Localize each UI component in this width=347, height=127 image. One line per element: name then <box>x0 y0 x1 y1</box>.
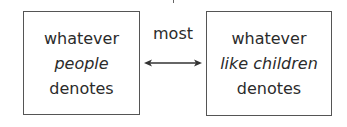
left-box-line-2: people <box>54 51 108 76</box>
right-box-line-2: like children <box>220 51 318 76</box>
relation-label: most <box>140 24 206 43</box>
left-box-line-1: whatever <box>44 26 119 51</box>
right-box-line-1: whatever <box>231 26 306 51</box>
right-box: whatever like children denotes <box>206 11 332 116</box>
left-box-line-3: denotes <box>49 76 113 101</box>
right-box-line-3: denotes <box>237 76 301 101</box>
top-fragment-mark <box>173 0 174 3</box>
left-box: whatever people denotes <box>23 11 140 115</box>
double-arrow-icon <box>144 57 202 69</box>
